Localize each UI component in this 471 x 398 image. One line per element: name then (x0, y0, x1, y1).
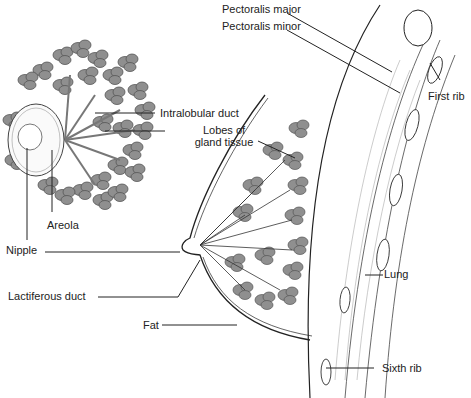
label-lactiferous-duct: Lactiferous duct (8, 290, 86, 302)
label-fat: Fat (143, 319, 159, 331)
label-sixth-rib: Sixth rib (382, 362, 422, 374)
chest-wall-outer (308, 5, 380, 398)
label-nipple: Nipple (6, 244, 37, 256)
nipple-frontal (18, 124, 42, 150)
diagram-illustration (0, 0, 471, 398)
label-areola: Areola (47, 219, 79, 231)
breast-anatomy-diagram: Pectoralis major Pectoralis minor First … (0, 0, 471, 398)
sagittal-ducts (200, 160, 292, 290)
label-pectoralis-major: Pectoralis major (222, 3, 301, 15)
clavicle (404, 10, 432, 46)
label-first-rib: First rib (428, 90, 465, 102)
ribs (321, 55, 445, 385)
label-lobes-of-gland-tissue: Lobes of gland tissue (188, 124, 260, 148)
label-intralobular-duct: Intralobular duct (160, 107, 239, 119)
label-pectoralis-minor: Pectoralis minor (222, 20, 301, 32)
sagittal-lobes (225, 120, 309, 310)
label-lung: Lung (384, 268, 408, 280)
